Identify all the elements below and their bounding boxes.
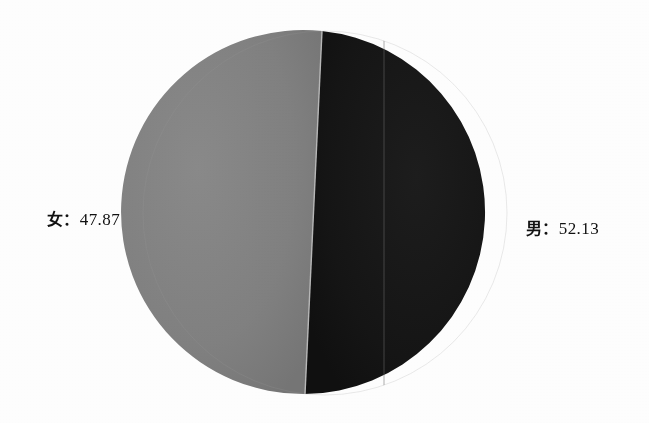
pie-chart-page: 女：47.87 男：52.13 <box>0 0 649 423</box>
pie-label-female-separator: ： <box>63 210 79 229</box>
pie-label-female-value: 47.87 <box>80 210 120 229</box>
pie-label-male-value: 52.13 <box>559 219 599 238</box>
pie-chart: 女：47.87 男：52.13 <box>0 0 649 423</box>
pie-label-male-name: 男 <box>526 219 542 238</box>
pie-slice-male <box>305 31 485 394</box>
pie-label-female-name: 女 <box>47 210 63 229</box>
pie-label-female: 女：47.87 <box>47 206 120 230</box>
pie-slice-female <box>121 30 322 394</box>
pie-label-male-separator: ： <box>542 219 558 238</box>
pie-label-male: 男：52.13 <box>526 215 599 239</box>
